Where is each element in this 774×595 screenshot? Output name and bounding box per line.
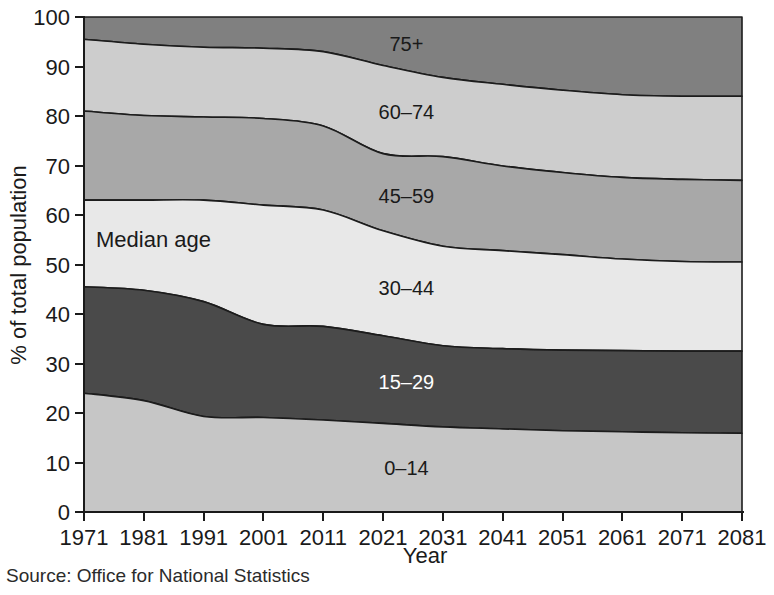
x-tick-label: 2001: [239, 525, 288, 550]
stacked-area-bands: [84, 17, 742, 512]
y-tick-label: 90: [46, 55, 70, 80]
chart-annotations: Median age: [96, 227, 211, 252]
band-label-15-29: 15–29: [379, 371, 435, 393]
y-axis-title: % of total population: [6, 165, 31, 364]
y-tick-label: 100: [33, 5, 70, 30]
annotation-median-age: Median age: [96, 227, 211, 252]
x-tick-label: 2011: [300, 525, 347, 550]
x-tick-label: 1971: [60, 525, 109, 550]
band-label-60-74: 60–74: [379, 101, 435, 123]
y-tick-label: 0: [58, 500, 70, 525]
y-tick-label: 80: [46, 104, 70, 129]
area-chart-svg: 0102030405060708090100197119811991200120…: [0, 0, 774, 595]
source-note: Source: Office for National Statistics: [6, 565, 310, 587]
y-tick-label: 60: [46, 203, 70, 228]
chart-figure: 0102030405060708090100197119811991200120…: [0, 0, 774, 595]
x-tick-label: 2071: [658, 525, 707, 550]
x-tick-label: 2021: [359, 525, 408, 550]
band-label-30-44: 30–44: [379, 277, 435, 299]
y-tick-label: 70: [46, 154, 70, 179]
y-tick-label: 50: [46, 253, 70, 278]
x-tick-label: 2041: [478, 525, 527, 550]
band-label-75-: 75+: [389, 33, 423, 55]
x-tick-label: 1981: [119, 525, 168, 550]
x-tick-label: 1991: [179, 525, 228, 550]
y-tick-label: 20: [46, 401, 70, 426]
band-label-45-59: 45–59: [379, 185, 435, 207]
y-tick-label: 10: [46, 451, 70, 476]
x-axis-title: Year: [403, 543, 447, 568]
x-tick-label: 2081: [718, 525, 767, 550]
x-tick-label: 2061: [598, 525, 647, 550]
y-tick-label: 40: [46, 302, 70, 327]
x-tick-label: 2051: [538, 525, 587, 550]
band-label-0-14: 0–14: [384, 457, 429, 479]
y-tick-label: 30: [46, 352, 70, 377]
